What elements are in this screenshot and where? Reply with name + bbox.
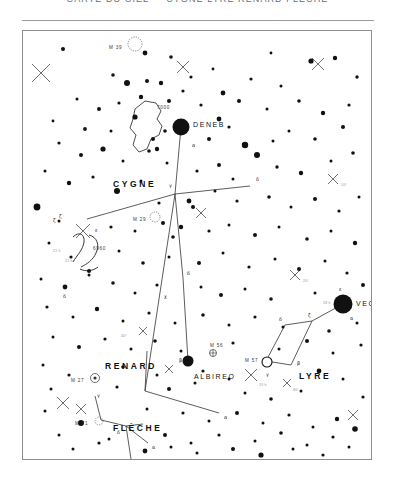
coordinate-cross-markers (32, 58, 358, 420)
deep-sky-symbols (91, 37, 273, 425)
star-points (34, 47, 365, 458)
star-chart-frame: CYGNELYRERENARDFLÈCHEDENEBVEGAALBIREOαγε… (22, 30, 372, 460)
nebula-outlines (73, 101, 162, 271)
star-chart-canvas[interactable] (23, 31, 371, 459)
constellation-lines (87, 127, 343, 459)
page-title: CARTE DU CIEL — CYGNE LYRE RENARD FLÈCHE (0, 0, 395, 3)
title-divider (22, 20, 374, 21)
